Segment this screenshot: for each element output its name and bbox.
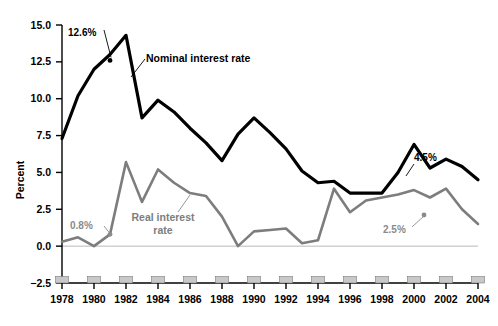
x-tick-label: 2004 xyxy=(466,293,490,305)
x-tick-label: 1996 xyxy=(338,293,362,305)
annotation-label-0-8: 0.8% xyxy=(70,220,93,231)
x-axis-block xyxy=(376,277,389,284)
x-axis-block xyxy=(184,277,197,284)
series-label-real-line2: rate xyxy=(153,224,172,236)
x-axis-block xyxy=(152,277,165,284)
marker-2-5 xyxy=(422,213,427,218)
y-tick-label: 12.5 xyxy=(31,55,52,67)
chart-canvas: 15.012.510.07.55.02.50.0−2.5 19781980198… xyxy=(0,0,498,326)
x-tick-label: 1984 xyxy=(146,293,170,305)
y-tick-label: 5.0 xyxy=(36,166,51,178)
marker-12-6 xyxy=(108,58,113,63)
y-tick-label: 10.0 xyxy=(31,92,52,104)
x-tick-label: 1994 xyxy=(306,293,330,305)
annotation-label-2-5: 2.5% xyxy=(383,224,406,235)
x-tick-label: 1990 xyxy=(242,293,266,305)
annotation-label-12-6: 12.6% xyxy=(68,27,96,38)
x-axis-block xyxy=(216,277,229,284)
x-axis-block xyxy=(408,277,421,284)
marker-0-8 xyxy=(108,232,113,237)
series-label-real-line1: Real interest xyxy=(131,211,195,223)
x-tick-label: 1992 xyxy=(274,293,298,305)
y-tick-label: 15.0 xyxy=(31,19,52,31)
y-tick-label: 0.0 xyxy=(36,240,51,252)
series-label-nominal: Nominal interest rate xyxy=(146,52,251,64)
interest-rate-line-chart: 15.012.510.07.55.02.50.0−2.5 19781980198… xyxy=(0,0,498,326)
x-axis-block xyxy=(88,277,101,284)
y-axis-title: Percent xyxy=(14,160,26,199)
y-tick-label: 2.5 xyxy=(36,203,51,215)
annotation-label-4-5: 4.5% xyxy=(414,152,437,163)
x-axis-block xyxy=(120,277,133,284)
x-axis-block xyxy=(440,277,453,284)
x-tick-label: 1998 xyxy=(370,293,394,305)
x-axis-block xyxy=(280,277,293,284)
x-axis-block xyxy=(472,277,485,284)
x-tick-label: 1988 xyxy=(210,293,234,305)
x-axis-block xyxy=(56,277,69,284)
x-tick-label: 1986 xyxy=(178,293,202,305)
x-tick-label: 1982 xyxy=(114,293,138,305)
x-tick-label: 1980 xyxy=(82,293,106,305)
x-axis-block xyxy=(248,277,261,284)
x-axis-block xyxy=(312,277,325,284)
x-tick-label: 2002 xyxy=(434,293,458,305)
x-axis-block xyxy=(344,277,357,284)
y-tick-label: 7.5 xyxy=(36,129,51,141)
x-tick-label: 2000 xyxy=(402,293,426,305)
x-tick-label: 1978 xyxy=(50,293,74,305)
y-tick-label: −2.5 xyxy=(30,277,51,289)
